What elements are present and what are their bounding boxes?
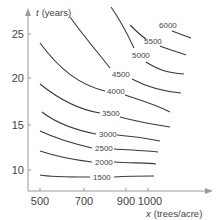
contour-3500 [120, 117, 170, 127]
contour-4000 [125, 95, 170, 112]
contour-2500 [114, 149, 158, 152]
contour-5000 [146, 62, 184, 74]
contour-4500 [70, 17, 110, 68]
contour-2500 [40, 131, 92, 148]
x-tick-label: 900 [117, 195, 135, 207]
contour-5500 [160, 46, 186, 55]
x-axis-arrow-icon [205, 188, 213, 194]
contour-1500 [114, 176, 154, 177]
contour-label: 6000 [159, 21, 177, 30]
contour-label: 3500 [102, 109, 120, 118]
contour-2000 [114, 162, 156, 164]
contour-label: 5000 [132, 51, 150, 60]
y-tick-label: 20 [12, 72, 24, 84]
contour-3500 [40, 84, 100, 113]
x-tick-label: 1000 [138, 195, 162, 207]
y-tick-label: 25 [12, 28, 24, 40]
contour-label: 1500 [93, 173, 111, 182]
contour-4500 [132, 79, 181, 93]
contour-label: 4500 [112, 70, 130, 79]
y-axis-title: t(years) [36, 7, 71, 18]
y-tick-label: 10 [12, 164, 24, 176]
x-tick-label: 500 [31, 195, 49, 207]
y-tick-label: 15 [12, 119, 24, 131]
x-tick-label: 700 [75, 195, 93, 207]
contour-label: 2500 [95, 144, 113, 153]
contour-3000 [117, 135, 160, 141]
contour-label: 5500 [144, 37, 162, 46]
contour-3000 [42, 112, 96, 134]
contour-label: 3000 [99, 130, 117, 139]
contour-1500 [40, 175, 90, 177]
y-axis-arrow-icon [25, 8, 31, 16]
contour-label: 4000 [107, 87, 125, 96]
contour-5000 [111, 7, 134, 48]
contour-chart: 25 20 15 10 500 700 900 1000 t(years) x(… [0, 0, 222, 220]
x-axis-title: x(trees/acre) [145, 208, 202, 219]
contour-6000 [172, 31, 191, 38]
contour-2000 [40, 151, 92, 162]
contour-label: 2000 [95, 158, 113, 167]
